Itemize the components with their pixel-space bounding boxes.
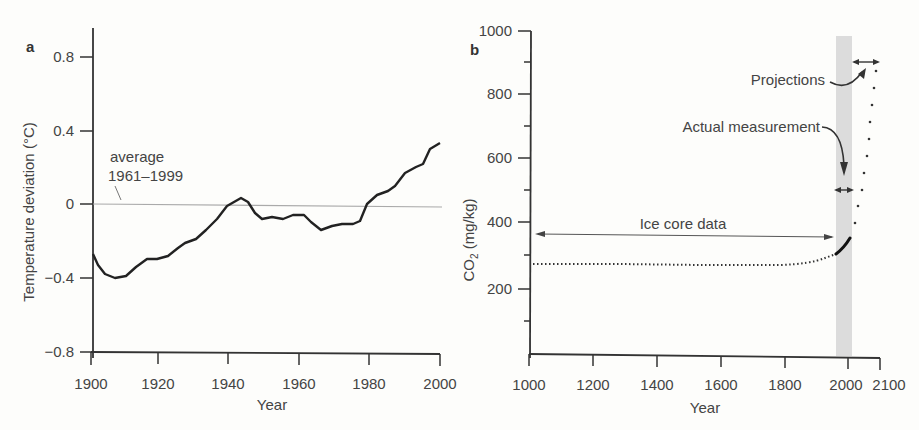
y-ticks — [518, 31, 531, 321]
x-tick-label: 2000 — [829, 376, 862, 393]
actual-measurement-annotation: Actual measurement — [682, 118, 820, 135]
ice-core-range-arrow — [535, 231, 834, 240]
y-ticks: 0.8 0.4 0 −0.4 −0.8 — [44, 48, 93, 360]
x-tick-label: 1200 — [576, 376, 609, 393]
x-tick-label: 1960 — [282, 375, 315, 392]
ice-core-annotation: Ice core data — [640, 215, 727, 232]
y-tick-label: 400 — [487, 213, 512, 230]
x-tick-label: 1980 — [352, 375, 385, 392]
x-tick-label: 1600 — [704, 376, 737, 393]
y-tick-label: 0.4 — [53, 122, 74, 139]
x-ticks: 1900 1920 1940 1960 1980 2000 — [74, 352, 456, 392]
x-axis — [91, 352, 440, 354]
x-axis-label: Year — [257, 396, 287, 413]
x-tick-label: 1800 — [768, 376, 801, 393]
x-tick-label: 2100 — [872, 376, 905, 393]
x-tick-label: 1400 — [640, 376, 673, 393]
projection-series-dots — [854, 70, 878, 225]
x-tick-label: 1940 — [211, 375, 244, 392]
average-annotation-line1: average — [110, 148, 164, 165]
annotation-pointer — [115, 186, 121, 200]
arrowhead-icon — [858, 68, 866, 79]
projections-range-arrow — [852, 59, 880, 65]
y-tick-label: 800 — [487, 85, 512, 102]
projections-annotation: Projections — [751, 71, 825, 88]
ice-core-series-dots — [533, 254, 836, 265]
x-axis-label: Year — [690, 399, 720, 416]
x-tick-label: 1000 — [512, 376, 545, 393]
y-tick-label: 0 — [66, 195, 74, 212]
average-annotation-line2: 1961–1999 — [108, 167, 183, 184]
y-tick-label: −0.4 — [44, 269, 74, 286]
panel-b-label: b — [470, 41, 479, 58]
y-tick-label: 600 — [487, 149, 512, 166]
y-axis-label: Temperature deviation (°C) — [20, 122, 37, 301]
y-tick-label: 200 — [487, 280, 512, 297]
y-tick-label: 1000 — [479, 22, 512, 39]
x-tick-label: 2000 — [423, 375, 456, 392]
y-axis — [530, 31, 531, 358]
y-tick-label: −0.8 — [44, 343, 74, 360]
x-tick-label: 1920 — [141, 375, 174, 392]
x-tick-label: 1900 — [74, 375, 107, 392]
average-reference-line — [93, 204, 442, 207]
y-axis-label: CO2 (mg/kg) — [460, 198, 480, 281]
x-axis — [529, 354, 880, 358]
figure: a 0.8 0.4 0 −0.4 −0.8 1900 1920 194 — [0, 0, 919, 430]
panel-a-label: a — [26, 38, 35, 55]
y-tick-label: 0.8 — [53, 48, 74, 65]
panel-b-co2-chart: b 1000 800 600 400 200 — [460, 22, 906, 416]
panel-a-temperature-chart: a 0.8 0.4 0 −0.4 −0.8 1900 1920 194 — [20, 28, 457, 413]
